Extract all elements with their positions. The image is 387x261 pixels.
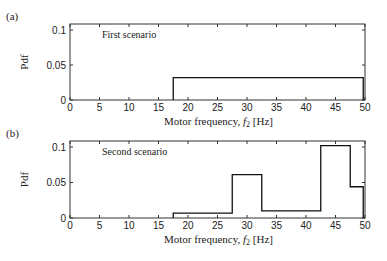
x-tick-label: 0 [67, 102, 73, 113]
x-tick-label: 50 [359, 220, 371, 231]
scenario-annotation: First scenario [102, 29, 156, 40]
x-axis-label: Motor frequency, f2 [Hz] [164, 233, 273, 247]
y-tick-label: 0.05 [47, 177, 67, 188]
panel-label: (b) [6, 127, 19, 140]
pdf-chart-figure: 0510152025303540455000.050.1(a)First sce… [0, 0, 387, 261]
x-tick-label: 40 [300, 102, 312, 113]
x-tick-label: 15 [153, 102, 165, 113]
y-axis-label: Pdf [18, 54, 30, 70]
x-tick-label: 45 [330, 102, 342, 113]
x-tick-label: 0 [67, 220, 73, 231]
x-tick-label: 45 [330, 220, 342, 231]
x-tick-label: 20 [182, 220, 194, 231]
y-tick-label: 0 [60, 95, 66, 106]
y-tick-label: 0.1 [52, 25, 66, 36]
x-tick-label: 30 [241, 102, 253, 113]
x-tick-label: 30 [241, 220, 253, 231]
x-axis-label: Motor frequency, f2 [Hz] [164, 115, 273, 129]
pdf-step-line [173, 146, 363, 218]
x-tick-label: 40 [300, 220, 312, 231]
x-tick-label: 50 [359, 102, 371, 113]
x-tick-label: 35 [271, 102, 283, 113]
x-tick-label: 25 [212, 102, 224, 113]
x-tick-label: 5 [97, 220, 103, 231]
y-tick-label: 0.1 [52, 142, 66, 153]
x-tick-label: 35 [271, 220, 283, 231]
y-tick-label: 0.05 [47, 60, 67, 71]
panel-label: (a) [6, 10, 19, 23]
x-tick-label: 25 [212, 220, 224, 231]
x-tick-label: 10 [123, 102, 135, 113]
pdf-step-line [173, 78, 363, 100]
scenario-annotation: Second scenario [102, 146, 167, 157]
x-tick-label: 20 [182, 102, 194, 113]
x-tick-label: 10 [123, 220, 135, 231]
panel-a: 0510152025303540455000.050.1(a)First sce… [6, 10, 371, 129]
y-tick-label: 0 [60, 213, 66, 224]
x-tick-label: 5 [97, 102, 103, 113]
panel-b: 0510152025303540455000.050.1(b)Second sc… [6, 127, 371, 247]
x-tick-label: 15 [153, 220, 165, 231]
y-axis-label: Pdf [18, 172, 30, 188]
